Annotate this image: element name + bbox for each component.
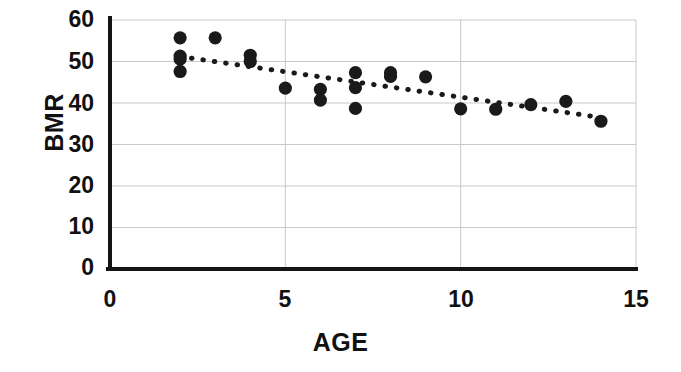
data-point bbox=[594, 115, 607, 128]
data-point bbox=[454, 102, 467, 115]
trendline bbox=[180, 57, 601, 118]
data-point bbox=[489, 103, 502, 116]
data-point bbox=[384, 70, 397, 83]
data-point bbox=[419, 70, 432, 83]
data-point bbox=[349, 66, 362, 79]
gridlines bbox=[110, 20, 636, 228]
data-point bbox=[244, 55, 257, 68]
data-point bbox=[209, 31, 222, 44]
data-point bbox=[524, 98, 537, 111]
data-point bbox=[349, 81, 362, 94]
data-point bbox=[349, 102, 362, 115]
data-point bbox=[314, 93, 327, 106]
plot-area bbox=[0, 0, 681, 372]
data-points bbox=[174, 31, 608, 128]
data-point bbox=[174, 31, 187, 44]
data-point bbox=[279, 81, 292, 94]
data-point bbox=[559, 95, 572, 108]
scatter-chart-figure: 60 50 40 30 20 10 0 0 5 10 15 BMR AGE bbox=[0, 0, 681, 372]
data-point bbox=[174, 65, 187, 78]
data-point bbox=[174, 52, 187, 65]
